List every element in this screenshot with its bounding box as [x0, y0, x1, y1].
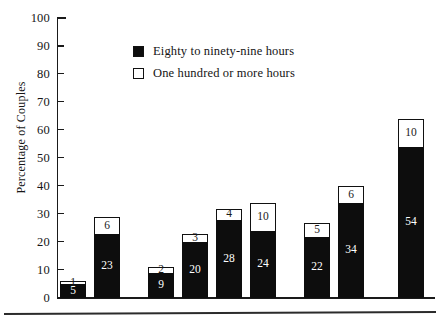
bar-segment-eighty-to-ninety-nine: 34	[338, 203, 364, 298]
bars-layer: 156232932042810245226341054	[0, 0, 439, 298]
bar-segment-one-hundred-or-more: 6	[338, 186, 364, 203]
stacked-bar: 1054	[398, 119, 424, 298]
bar-segment-value: 23	[101, 260, 113, 272]
bar-segment-one-hundred-or-more: 3	[182, 234, 208, 242]
stacked-bar: 1024	[250, 203, 276, 298]
stacked-bar: 634	[338, 186, 364, 298]
bar-segment-eighty-to-ninety-nine: 28	[216, 220, 242, 298]
bar-segment-one-hundred-or-more: 5	[304, 223, 330, 237]
stacked-bar: 29	[148, 267, 174, 298]
bar-segment-value: 6	[348, 189, 354, 201]
bar-segment-value: 10	[405, 127, 417, 139]
bar-segment-value: 10	[257, 211, 269, 223]
bar-segment-value: 5	[314, 224, 320, 236]
bar-segment-value: 54	[405, 216, 417, 228]
bar-segment-value: 28	[223, 253, 235, 265]
bar-segment-eighty-to-ninety-nine: 20	[182, 242, 208, 298]
bar-segment-value: 9	[158, 279, 164, 291]
bar-segment-value: 4	[226, 208, 232, 220]
bar-segment-one-hundred-or-more: 10	[250, 203, 276, 231]
bar-segment-value: 5	[70, 285, 76, 297]
bar-segment-eighty-to-ninety-nine: 5	[60, 284, 86, 298]
bar-segment-eighty-to-ninety-nine: 9	[148, 273, 174, 298]
bar-segment-one-hundred-or-more: 4	[216, 209, 242, 220]
stacked-bar: 428	[216, 209, 242, 298]
stacked-bar: 320	[182, 234, 208, 298]
stacked-bar: 623	[94, 217, 120, 298]
bar-segment-one-hundred-or-more: 6	[94, 217, 120, 234]
bar-segment-eighty-to-ninety-nine: 24	[250, 231, 276, 298]
bar-segment-value: 20	[189, 264, 201, 276]
stacked-bar: 522	[304, 223, 330, 298]
stacked-bar: 15	[60, 281, 86, 298]
bar-segment-eighty-to-ninety-nine: 22	[304, 237, 330, 298]
bar-segment-value: 2	[158, 264, 164, 276]
bar-segment-value: 3	[192, 232, 198, 244]
bar-segment-eighty-to-ninety-nine: 54	[398, 147, 424, 298]
bar-segment-value: 34	[345, 244, 357, 256]
bar-segment-eighty-to-ninety-nine: 23	[94, 234, 120, 298]
bar-segment-one-hundred-or-more: 10	[398, 119, 424, 147]
bar-segment-value: 6	[104, 220, 110, 232]
bar-segment-value: 22	[311, 261, 323, 273]
bar-segment-value: 24	[257, 258, 269, 270]
stacked-bar-chart: 1009080706050403020100 Percentage of Cou…	[0, 0, 439, 324]
